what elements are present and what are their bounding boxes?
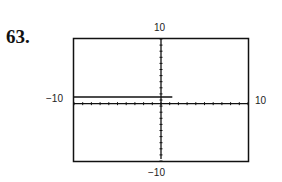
axes [74,39,248,161]
graph-window [0,0,282,182]
